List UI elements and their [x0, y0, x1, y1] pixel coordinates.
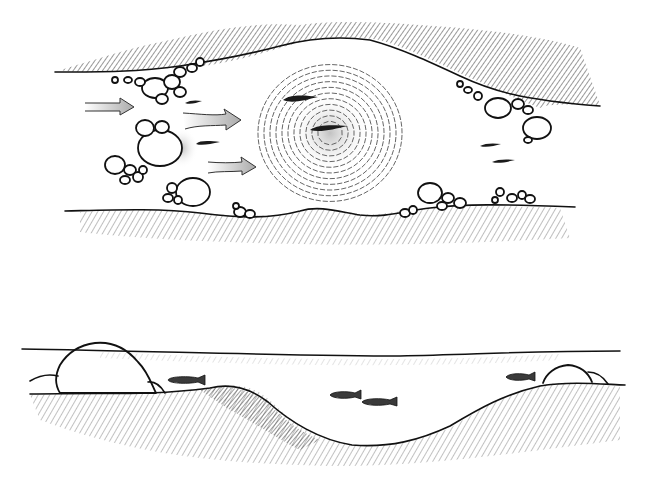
current-arrow-2 [183, 109, 241, 130]
fish-side-1 [168, 375, 205, 385]
fish-side-3 [362, 397, 397, 406]
boulder-lower-left [163, 178, 210, 206]
fish-side-2 [330, 390, 361, 399]
swirling-pool [258, 65, 402, 202]
fish-side-4 [506, 372, 535, 381]
plan-view-panel [55, 22, 600, 245]
current-arrow-3 [208, 157, 256, 175]
cross-section-panel [22, 343, 625, 466]
lower-bank [80, 206, 570, 244]
boulder-right-section [543, 365, 608, 384]
current-arrow-1 [85, 98, 134, 115]
stream-illustration [0, 0, 648, 477]
rock-cluster-bank-center [233, 203, 255, 218]
rock-cluster-left [105, 156, 147, 184]
stream-bed [30, 383, 620, 466]
